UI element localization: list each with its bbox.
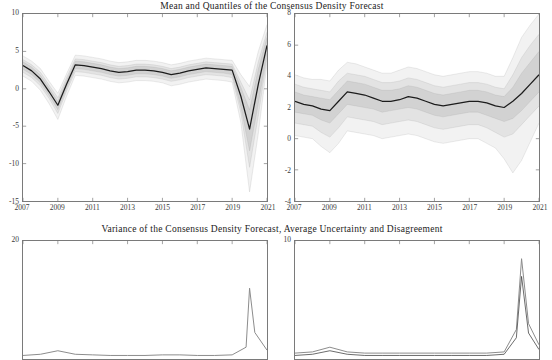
- y-tick-label: -2: [272, 167, 291, 175]
- x-tick-label: 2017: [456, 204, 484, 212]
- x-tick-label: 2009: [315, 204, 343, 212]
- bottom-panel-title: Variance of the Consensus Density Foreca…: [0, 224, 544, 234]
- x-tick-label: 2017: [184, 204, 212, 212]
- x-tick-label: 2013: [113, 204, 141, 212]
- x-tick-label: 2021: [526, 204, 552, 212]
- y-tick-label: 4: [272, 72, 291, 80]
- x-tick-label: 2011: [350, 204, 378, 212]
- chart-bottom-left-canvas: [23, 241, 267, 359]
- x-tick-label: 2007: [8, 204, 36, 212]
- chart-bottom-right: [294, 240, 540, 360]
- x-tick-label: 2019: [219, 204, 247, 212]
- chart-bottom-left: [22, 240, 268, 360]
- y-tick-label: 6: [272, 41, 291, 49]
- y-tick-label: 20: [0, 236, 19, 244]
- x-tick-label: 2007: [280, 204, 308, 212]
- y-tick-label: 0: [272, 135, 291, 143]
- y-tick-label: 5: [0, 47, 19, 55]
- x-tick-label: 2019: [491, 204, 519, 212]
- chart-top-right-canvas: [295, 14, 539, 201]
- chart-top-left-canvas: [23, 14, 267, 201]
- chart-top-left: [22, 13, 268, 202]
- x-tick-label: 2011: [78, 204, 106, 212]
- x-tick-label: 2013: [385, 204, 413, 212]
- x-tick-label: 2015: [149, 204, 177, 212]
- x-tick-label: 2015: [421, 204, 449, 212]
- y-tick-label: -10: [0, 160, 19, 168]
- y-tick-label: 10: [0, 9, 19, 17]
- y-tick-label: 0: [0, 85, 19, 93]
- y-tick-label: 10: [272, 236, 291, 244]
- y-tick-label: 8: [272, 9, 291, 17]
- y-tick-label: 2: [272, 104, 291, 112]
- x-tick-label: 2009: [43, 204, 71, 212]
- chart-bottom-right-canvas: [295, 241, 539, 359]
- y-tick-label: -5: [0, 122, 19, 130]
- chart-top-right: [294, 13, 540, 202]
